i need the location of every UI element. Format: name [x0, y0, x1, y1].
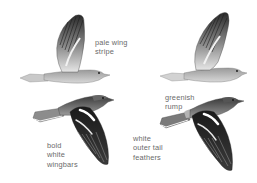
wing-raised: [195, 13, 229, 71]
label-line: wingbars: [47, 160, 78, 169]
label-line: outer tail: [133, 143, 163, 152]
eye: [236, 70, 238, 72]
label-line: white: [133, 134, 163, 143]
label-line: bold: [47, 141, 78, 150]
label-line: pale wing: [95, 38, 128, 47]
label-line: rump: [165, 102, 195, 111]
label-line: feathers: [133, 153, 163, 162]
body: [184, 68, 247, 82]
label-pale-wing-stripe: pale wing stripe: [95, 38, 128, 57]
eye: [102, 97, 104, 99]
label-line: stripe: [95, 47, 128, 56]
label-line: greenish: [165, 93, 195, 102]
chaffinch-flight-illustration: [0, 0, 257, 183]
label-white-outer-tail-feathers: white outer tail feathers: [133, 134, 163, 162]
label-greenish-rump: greenish rump: [165, 93, 195, 112]
eye: [98, 72, 100, 74]
label-bold-white-wingbars: bold white wingbars: [47, 141, 78, 169]
bird-upper-right: [160, 13, 247, 83]
eye: [232, 99, 234, 101]
label-line: white: [47, 150, 78, 159]
